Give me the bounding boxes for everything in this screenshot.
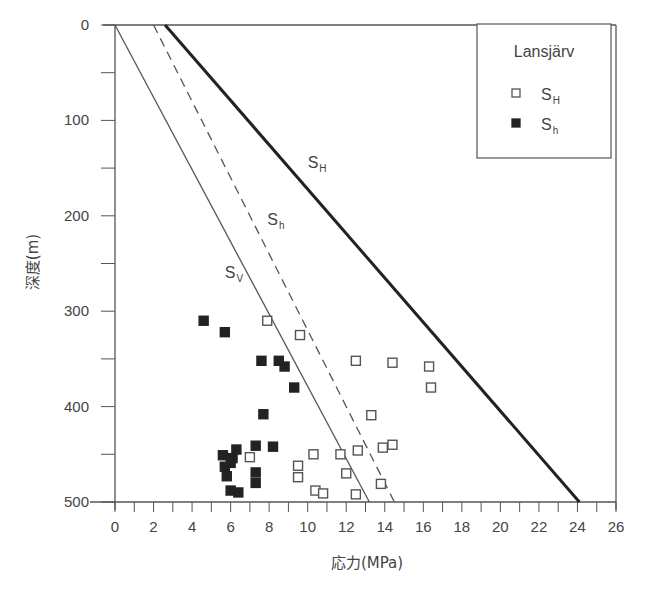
point-sH-open bbox=[263, 316, 272, 325]
point-sH-open bbox=[336, 450, 345, 459]
x-tick-label: 10 bbox=[299, 518, 316, 535]
point-sh-filled bbox=[220, 328, 229, 337]
point-sH-open bbox=[295, 331, 304, 340]
y-tick-label: 200 bbox=[64, 207, 89, 224]
point-sh-filled bbox=[234, 488, 243, 497]
line-label-sv: SV bbox=[225, 264, 244, 284]
point-sH-open bbox=[294, 461, 303, 470]
point-sh-filled bbox=[251, 478, 260, 487]
x-tick-label: 22 bbox=[531, 518, 548, 535]
line-sh bbox=[154, 25, 395, 502]
x-tick-label: 18 bbox=[454, 518, 471, 535]
x-tick-label: 4 bbox=[188, 518, 196, 535]
point-sh-filled bbox=[290, 383, 299, 392]
x-tick-label: 14 bbox=[376, 518, 393, 535]
x-axis-title: 応力(MPa) bbox=[331, 554, 403, 572]
point-sh-filled bbox=[269, 442, 278, 451]
line-label-sh: SH bbox=[308, 154, 327, 174]
point-sH-open bbox=[427, 383, 436, 392]
point-sh-filled bbox=[251, 468, 260, 477]
data-points bbox=[199, 316, 435, 499]
x-tick-label: 26 bbox=[608, 518, 625, 535]
x-tick-label: 16 bbox=[415, 518, 432, 535]
legend-title: Lansjärv bbox=[514, 43, 574, 60]
y-tick-label: 400 bbox=[64, 398, 89, 415]
point-sH-open bbox=[351, 490, 360, 499]
x-tick-label: 0 bbox=[111, 518, 119, 535]
point-sh-filled bbox=[222, 472, 231, 481]
point-sh-filled bbox=[232, 445, 241, 454]
point-sh-filled bbox=[220, 462, 229, 471]
point-sh-filled bbox=[280, 362, 289, 371]
point-sH-open bbox=[319, 489, 328, 498]
legend-open-square-icon bbox=[512, 89, 520, 97]
point-sH-open bbox=[309, 450, 318, 459]
point-sH-open bbox=[367, 411, 376, 420]
y-tick-label: 300 bbox=[64, 302, 89, 319]
point-sh-filled bbox=[259, 410, 268, 419]
stress-depth-chart: 024681012141618202224260100200300400500 … bbox=[0, 0, 652, 592]
point-sH-open bbox=[245, 453, 254, 462]
x-tick-label: 8 bbox=[265, 518, 273, 535]
point-sh-filled bbox=[251, 441, 260, 450]
y-tick-label: 100 bbox=[64, 111, 89, 128]
x-tick-label: 12 bbox=[338, 518, 355, 535]
line-sv bbox=[115, 25, 369, 502]
point-sH-open bbox=[353, 446, 362, 455]
point-sH-open bbox=[294, 473, 303, 482]
point-sH-open bbox=[376, 479, 385, 488]
line-label-sh: Sh bbox=[267, 211, 284, 231]
point-sH-open bbox=[351, 356, 360, 365]
point-sH-open bbox=[388, 440, 397, 449]
legend: Lansjärv SHSh bbox=[477, 24, 611, 158]
point-sH-open bbox=[388, 358, 397, 367]
x-tick-label: 6 bbox=[226, 518, 234, 535]
y-axis-title: 深度(m) bbox=[24, 234, 42, 290]
x-tick-label: 24 bbox=[569, 518, 586, 535]
y-tick-label: 500 bbox=[64, 493, 89, 510]
x-tick-label: 2 bbox=[149, 518, 157, 535]
x-tick-label: 20 bbox=[492, 518, 509, 535]
point-sH-open bbox=[425, 362, 434, 371]
legend-filled-square-icon bbox=[512, 119, 520, 127]
point-sH-open bbox=[378, 443, 387, 452]
point-sh-filled bbox=[257, 356, 266, 365]
point-sh-filled bbox=[199, 316, 208, 325]
point-sH-open bbox=[342, 469, 351, 478]
y-tick-label: 0 bbox=[81, 16, 89, 33]
